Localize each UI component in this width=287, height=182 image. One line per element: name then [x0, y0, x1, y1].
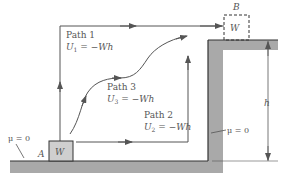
friction-left-leader — [16, 144, 24, 158]
height-label: h — [264, 98, 270, 108]
path-1-label: Path 1 — [66, 30, 95, 40]
block-a-weight-label: W — [55, 147, 65, 157]
block-b-weight-label: W — [230, 23, 240, 33]
work-paths-diagram: Path 1 U1 = −Wh Path 3 U3 = −Wh Path 2 U… — [0, 0, 287, 182]
point-a-label: A — [37, 149, 45, 159]
path-3-work: U3 = −Wh — [107, 94, 154, 105]
path-3-label: Path 3 — [107, 82, 136, 92]
point-b-label: B — [232, 2, 240, 12]
path-1-work: U1 = −Wh — [66, 42, 113, 53]
path-2-label: Path 2 — [144, 110, 173, 120]
ground-lower — [10, 161, 215, 173]
friction-left-label: μ = 0 — [8, 134, 30, 143]
path-2-work: U2 = −Wh — [144, 122, 191, 133]
friction-right-label: μ = 0 — [227, 126, 249, 135]
